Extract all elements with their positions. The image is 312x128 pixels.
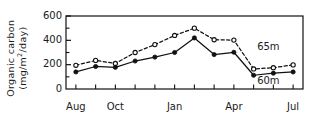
data-point-60m <box>192 36 196 40</box>
data-point-60m <box>133 59 137 63</box>
plot-area <box>0 0 312 128</box>
data-point-60m <box>113 65 117 69</box>
data-point-65m <box>173 33 177 37</box>
series-label-60m: 60m <box>257 75 279 86</box>
data-point-65m <box>212 38 216 42</box>
data-point-60m <box>153 55 157 59</box>
data-point-65m <box>291 63 295 67</box>
data-point-60m <box>212 52 216 56</box>
data-point-60m <box>252 73 256 77</box>
data-point-60m <box>173 50 177 54</box>
data-point-60m <box>94 64 98 68</box>
data-point-65m <box>192 26 196 30</box>
data-point-65m <box>153 42 157 46</box>
data-point-65m <box>271 66 275 70</box>
series-label-65m: 65m <box>257 41 279 52</box>
data-point-60m <box>232 50 236 54</box>
chart-figure: Organic carbon (mg/m2/day) 0200400600 Au… <box>0 0 312 128</box>
data-point-60m <box>74 70 78 74</box>
data-point-60m <box>291 70 295 74</box>
data-point-65m <box>252 67 256 71</box>
data-point-65m <box>94 58 98 62</box>
data-point-65m <box>74 63 78 67</box>
data-point-65m <box>133 50 137 54</box>
data-point-65m <box>232 38 236 42</box>
